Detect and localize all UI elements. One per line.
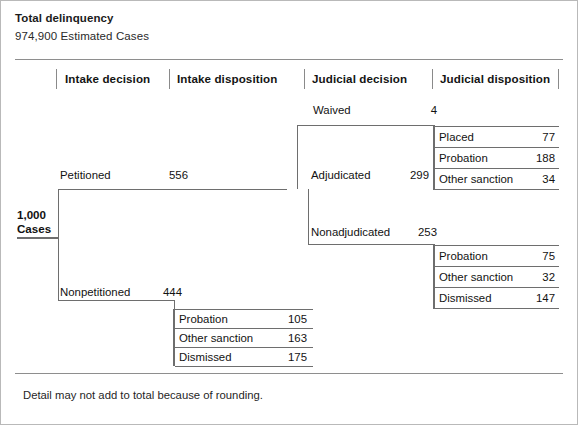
column-header-intake-decision: Intake decision <box>65 72 150 85</box>
leaf-nonadjudicated-other-sanction: Other sanction 32 <box>439 271 559 284</box>
node-waived: Waived 4 <box>313 104 443 117</box>
column-header-judicial-decision: Judicial decision <box>312 72 407 85</box>
nonadjudicated-disposition-group-bar <box>433 244 435 309</box>
node-nonadjudicated: Nonadjudicated 253 <box>311 226 437 239</box>
column-tick-1 <box>56 69 57 89</box>
footer-divider <box>15 373 563 374</box>
column-tick-4 <box>432 69 433 89</box>
node-petitioned: Petitioned 556 <box>60 169 200 182</box>
judicial-lower-bracket-vertical <box>308 189 309 244</box>
nonadjudicated-disposition-rule-2 <box>435 287 559 288</box>
leaf-value: 163 <box>179 332 307 345</box>
judicial-upper-bracket-vertical <box>297 125 298 189</box>
leaf-nonpetitioned-dismissed: Dismissed 175 <box>179 351 315 364</box>
leaf-value: 175 <box>179 351 307 364</box>
leaf-value: 77 <box>439 131 555 144</box>
nonadjudicated-disposition-rule-bottom <box>435 308 559 309</box>
petitioned-connector <box>58 189 287 190</box>
nonadjudicated-disposition-rule-top <box>435 245 559 246</box>
node-petitioned-value: 556 <box>156 169 188 182</box>
node-nonadjudicated-value: 253 <box>403 226 437 239</box>
root-node: 1,000 Cases <box>17 208 51 235</box>
column-tick-3 <box>304 69 305 89</box>
leaf-value: 188 <box>439 152 555 165</box>
node-adjudicated-label: Adjudicated <box>311 169 371 181</box>
adjudicated-disposition-rule-2 <box>435 168 559 169</box>
node-adjudicated-value: 299 <box>395 169 429 182</box>
leaf-adjudicated-other-sanction: Other sanction 34 <box>439 173 559 186</box>
leaf-nonpetitioned-other-sanction: Other sanction 163 <box>179 332 315 345</box>
node-nonpetitioned: Nonpetitioned 444 <box>60 286 210 299</box>
judicial-upper-bracket-top <box>297 125 434 126</box>
delinquency-flow-figure: Total delinquency 974,900 Estimated Case… <box>0 0 578 425</box>
intake-disposition-rule-bottom <box>175 366 313 367</box>
intake-bracket-vertical <box>58 189 59 301</box>
leaf-nonpetitioned-probation: Probation 105 <box>179 313 315 326</box>
adjudicated-disposition-rule-bottom <box>435 189 559 190</box>
nonadjudicated-disposition-rule-1 <box>435 266 559 267</box>
leaf-nonadjudicated-dismissed: Dismissed 147 <box>439 292 559 305</box>
root-label: Cases <box>17 222 51 235</box>
column-header-intake-disposition: Intake disposition <box>177 72 277 85</box>
intake-disposition-rule-top <box>175 309 313 310</box>
intake-disposition-rule-2 <box>175 347 313 348</box>
intake-disposition-rule-1 <box>175 328 313 329</box>
adjudicated-disposition-rule-top <box>435 126 559 127</box>
node-nonadjudicated-label: Nonadjudicated <box>311 226 390 238</box>
leaf-adjudicated-placed: Placed 77 <box>439 131 559 144</box>
root-total: 1,000 <box>17 208 46 221</box>
figure-subtitle: 974,900 Estimated Cases <box>15 30 149 42</box>
leaf-value: 32 <box>439 271 555 284</box>
nonadjudicated-connector <box>308 244 434 245</box>
column-tick-5 <box>558 69 559 89</box>
leaf-nonadjudicated-probation: Probation 75 <box>439 250 559 263</box>
node-adjudicated: Adjudicated 299 <box>311 169 433 182</box>
node-petitioned-label: Petitioned <box>60 169 111 181</box>
adjudicated-disposition-group-bar <box>433 125 435 190</box>
leaf-value: 105 <box>179 313 307 326</box>
figure-title: Total delinquency <box>15 12 114 24</box>
leaf-value: 147 <box>439 292 555 305</box>
node-waived-label: Waived <box>313 104 351 116</box>
figure-footnote: Detail may not add to total because of r… <box>23 389 263 401</box>
intake-disposition-group-bar <box>173 309 175 366</box>
root-stem <box>17 238 58 239</box>
header-divider-top <box>15 59 563 60</box>
leaf-value: 75 <box>439 250 555 263</box>
node-nonpetitioned-label: Nonpetitioned <box>60 286 130 298</box>
adjudicated-disposition-rule-1 <box>435 147 559 148</box>
node-waived-value: 4 <box>415 104 437 117</box>
column-header-judicial-disposition: Judicial disposition <box>440 72 550 85</box>
leaf-adjudicated-probation: Probation 188 <box>439 152 559 165</box>
column-tick-2 <box>169 69 170 89</box>
node-nonpetitioned-value: 444 <box>150 286 182 299</box>
nonpetitioned-connector <box>58 300 175 301</box>
leaf-value: 34 <box>439 173 555 186</box>
